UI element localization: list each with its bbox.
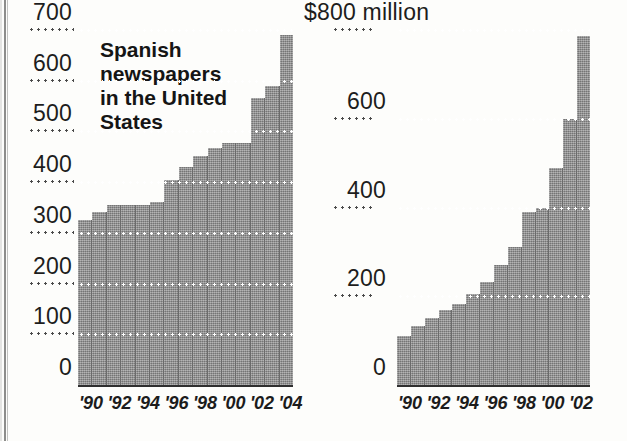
chart-panel-ad-revenue: Ad revenue 0200400600$800 million '90 '9… xyxy=(312,0,627,441)
y-axis-tick-label: 700 xyxy=(10,1,72,24)
y-axis-tick-marker xyxy=(28,79,74,82)
bar-series-ad-revenue xyxy=(397,30,590,385)
bar xyxy=(107,205,121,385)
bar xyxy=(494,265,508,385)
y-axis-tick-marker xyxy=(28,129,74,132)
bar xyxy=(536,208,550,386)
y-axis-tick-label: 200 xyxy=(304,267,386,290)
bar xyxy=(265,86,279,385)
y-axis-tick-marker xyxy=(28,28,74,31)
bar xyxy=(222,143,236,385)
bar xyxy=(508,247,522,385)
bar xyxy=(208,148,222,385)
y-axis-tick-label: 200 xyxy=(10,255,72,278)
y-axis-tick-marker xyxy=(28,332,74,335)
bar xyxy=(466,294,480,385)
bar xyxy=(251,98,265,385)
y-axis-tick-marker xyxy=(28,180,74,183)
chart-panel-spanish-newspapers: Spanish newspapers in the United States … xyxy=(0,0,312,441)
bar xyxy=(136,205,150,385)
x-axis-labels-ad-revenue: '90 '92 '94 '96 '98 '00 '02 xyxy=(398,393,593,414)
bar xyxy=(480,282,494,385)
y-axis-tick-label: 500 xyxy=(10,102,72,125)
infographic-figure: Spanish newspapers in the United States … xyxy=(0,0,627,441)
bar xyxy=(236,143,250,385)
bar xyxy=(78,220,92,385)
y-axis-tick-label: 600 xyxy=(304,90,386,113)
y-axis-tick-marker xyxy=(332,206,376,209)
bar xyxy=(563,119,577,385)
bar xyxy=(549,168,563,385)
bar xyxy=(193,156,207,385)
bar xyxy=(411,326,425,385)
y-axis-tick-label: 0 xyxy=(304,356,386,379)
x-axis-line-right xyxy=(397,385,590,387)
bar xyxy=(280,35,293,385)
plot-area-ad-revenue xyxy=(397,30,590,385)
bar xyxy=(397,336,411,385)
y-axis-tick-label: 300 xyxy=(10,204,72,227)
bar xyxy=(179,167,193,385)
x-axis-labels-spanish-newspapers: '90 '92 '94 '96 '98 '00 '02 '04 xyxy=(79,393,302,414)
bar-series-spanish-newspapers xyxy=(78,30,293,385)
y-axis-tick-marker xyxy=(332,117,376,120)
bar xyxy=(425,318,439,385)
bar xyxy=(522,212,536,385)
y-axis-tick-marker xyxy=(332,28,376,31)
y-axis-tick-label: 0 xyxy=(10,356,72,379)
y-axis-tick-marker xyxy=(28,282,74,285)
bar xyxy=(150,202,164,385)
y-axis-tick-label: 600 xyxy=(10,52,72,75)
bar xyxy=(452,304,466,385)
x-axis-line-left xyxy=(78,385,293,387)
y-axis-tick-label: 100 xyxy=(10,305,72,328)
y-axis-tick-marker xyxy=(28,231,74,234)
bar xyxy=(577,36,590,385)
y-axis-tick-label: 400 xyxy=(10,153,72,176)
y-axis-tick-label: 400 xyxy=(304,179,386,202)
bar xyxy=(121,205,135,385)
bar xyxy=(439,310,453,385)
y-axis-tick-label: $800 million xyxy=(304,1,386,24)
bar xyxy=(92,212,106,385)
bar xyxy=(164,180,178,385)
plot-area-spanish-newspapers xyxy=(78,30,293,385)
y-axis-tick-marker xyxy=(332,294,376,297)
